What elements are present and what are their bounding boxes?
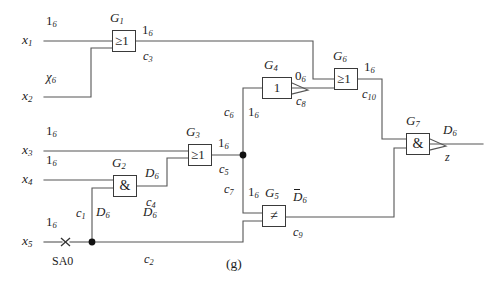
signal-value-output: D6 [443, 123, 457, 138]
net-label-c8: c8 [296, 95, 306, 110]
signal-value-c1: D6 [96, 205, 110, 220]
signal-value-c5: 16 [218, 136, 229, 151]
net-label-c6: c6 [224, 106, 234, 121]
net-label-c5: c5 [219, 163, 229, 178]
signal-value-x2: χ6 [46, 70, 56, 85]
signal-value-c8: 06 [295, 69, 306, 84]
circuit-diagram: x1 16 x2 χ6 x3 16 x4 16 x5 16 ≥1 & ≥1 1 … [0, 0, 496, 287]
sa0-fault-label: SA0 [52, 254, 73, 269]
net-label-c10: c10 [362, 88, 376, 103]
net-label-c7: c7 [224, 183, 234, 198]
gate-g4-inverter[interactable]: 1 [262, 77, 292, 99]
input-label-x4: x4 [22, 172, 32, 187]
output-label-z: z [445, 151, 450, 163]
figure-caption: (g) [226, 256, 242, 272]
signal-value-x4: 16 [46, 153, 57, 168]
net-label-c2: c2 [144, 253, 154, 268]
gate-label-g3: G3 [186, 125, 200, 140]
net-label-c9: c9 [293, 226, 303, 241]
gate-label-g6: G6 [333, 49, 347, 64]
fanout-node-x5 [89, 239, 96, 246]
gate-label-g2: G2 [112, 156, 126, 171]
gate-label-g4: G4 [264, 58, 278, 73]
signal-value-c2: D6 [143, 205, 157, 220]
signal-value-x5: 16 [46, 215, 57, 230]
gate-label-g5: G5 [265, 186, 279, 201]
input-label-x1: x1 [22, 33, 32, 48]
signal-value-c6: 16 [248, 105, 259, 120]
wire-c9-to-g7 [286, 148, 406, 217]
signal-value-c9: D6 [293, 190, 307, 205]
wire-c2-to-g5 [92, 221, 262, 242]
signal-value-c10: 16 [364, 60, 375, 75]
gate-g6-or[interactable]: ≥1 [334, 68, 358, 90]
signal-value-c7: 16 [248, 185, 259, 200]
input-label-x3: x3 [22, 143, 32, 158]
gate-label-g7: G7 [406, 114, 420, 129]
signal-value-c3: 16 [142, 23, 153, 38]
gate-g5-xor[interactable]: ≠ [262, 205, 286, 227]
wire-c6-to-g4 [243, 88, 262, 155]
net-label-c3: c3 [143, 50, 153, 65]
signal-value-x1: 16 [46, 14, 57, 29]
input-label-x2: x2 [22, 89, 32, 104]
gate-g1-or[interactable]: ≥1 [112, 30, 136, 52]
gate-g3-or[interactable]: ≥1 [188, 144, 212, 166]
gate-label-g1: G1 [110, 11, 124, 26]
input-label-x5: x5 [22, 234, 32, 249]
gate-g7-nand[interactable]: & [406, 133, 430, 155]
signal-value-x3: 16 [46, 124, 57, 139]
net-label-c1: c1 [76, 207, 86, 222]
signal-value-c4: D6 [145, 166, 159, 181]
fanout-node-c5 [240, 152, 247, 159]
gate-g2-and[interactable]: & [113, 175, 137, 197]
